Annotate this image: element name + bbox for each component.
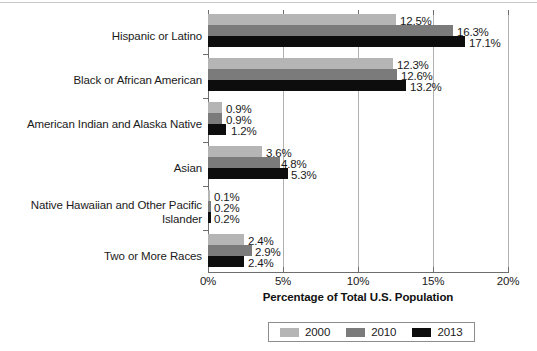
legend-label-2000: 2000	[305, 326, 330, 338]
bar-black-or-african-american-2013	[208, 80, 406, 91]
bar-native-hawaiian-2010	[208, 201, 211, 212]
bar-hispanic-or-latino-2010	[208, 25, 453, 36]
bar-value-black-or-african-american-2013: 13.2%	[410, 81, 442, 93]
bar-native-hawaiian-2000	[208, 190, 210, 201]
bar-black-or-african-american-2010	[208, 69, 397, 80]
xtick-15	[433, 267, 434, 273]
xtick-10	[358, 267, 359, 273]
bar-two-or-more-races-2010	[208, 245, 252, 256]
bar-hispanic-or-latino-2000	[208, 14, 396, 25]
bar-value-hispanic-or-latino-2013: 17.1%	[469, 37, 501, 49]
bar-value-asian-2013: 5.3%	[291, 169, 316, 181]
ytick-3	[203, 186, 208, 187]
bar-american-indian-and-alaska-native-2010	[208, 113, 222, 124]
bar-value-two-or-more-races-2013: 2.4%	[248, 257, 273, 269]
xtick-0	[208, 267, 209, 273]
ytick-4	[203, 230, 208, 231]
category-label-two-or-more-races: Two or More Races	[0, 250, 202, 264]
ytick-2	[203, 142, 208, 143]
gridline-20	[508, 10, 509, 272]
bar-black-or-african-american-2000	[208, 58, 393, 69]
legend-label-2010: 2010	[371, 326, 396, 338]
chart-legend: 2000 2010 2013	[268, 322, 475, 342]
bar-two-or-more-races-2013	[208, 256, 244, 267]
bar-american-indian-and-alaska-native-2000	[208, 102, 222, 113]
gridline-15	[433, 10, 434, 272]
bar-native-hawaiian-2013	[208, 212, 211, 223]
xtick-label-5: 5%	[259, 275, 307, 287]
bar-value-native-hawaiian-2013: 0.2%	[214, 213, 239, 225]
xtick-label-20: 20%	[484, 275, 532, 287]
y-axis-line	[208, 10, 209, 272]
bar-asian-2000	[208, 146, 262, 157]
bar-two-or-more-races-2000	[208, 234, 244, 245]
legend-swatch-icon-2013	[412, 328, 431, 337]
xtick-label-0: 0%	[184, 275, 232, 287]
legend-swatch-icon-2000	[280, 328, 299, 337]
bar-value-american-indian-and-alaska-native-2013: 1.2%	[231, 125, 256, 137]
xtick-top-20	[508, 10, 509, 15]
legend-swatch-icon-2010	[346, 328, 365, 337]
bar-american-indian-and-alaska-native-2013	[208, 124, 226, 135]
x-axis-title: Percentage of Total U.S. Population	[208, 291, 508, 303]
xtick-top-15	[433, 10, 434, 15]
xtick-label-15: 15%	[409, 275, 457, 287]
ytick-1	[203, 98, 208, 99]
bar-asian-2013	[208, 168, 288, 179]
gridline-5	[283, 10, 284, 272]
bar-hispanic-or-latino-2013	[208, 36, 465, 47]
legend-item-2013: 2013	[412, 326, 462, 338]
bar-chart: 0% 5% 10% 15% 20% Hispanic or Latino Bla…	[0, 0, 537, 351]
legend-item-2000: 2000	[280, 326, 330, 338]
category-label-hispanic-or-latino: Hispanic or Latino	[0, 30, 202, 44]
gridline-10	[358, 10, 359, 272]
category-label-american-indian-and-alaska-native: American Indian and Alaska Native	[0, 118, 202, 132]
bar-asian-2010	[208, 157, 280, 168]
category-label-asian: Asian	[0, 162, 202, 176]
legend-item-2010: 2010	[346, 326, 396, 338]
legend-label-2013: 2013	[437, 326, 462, 338]
category-label-native-hawaiian-and-other-pacific-islander: Native Hawaiian and Other Pacific Island…	[0, 199, 202, 226]
ytick-0	[203, 54, 208, 55]
xtick-label-10: 10%	[334, 275, 382, 287]
xtick-5	[283, 267, 284, 273]
xtick-20	[508, 267, 509, 273]
category-label-black-or-african-american: Black or African American	[0, 74, 202, 88]
